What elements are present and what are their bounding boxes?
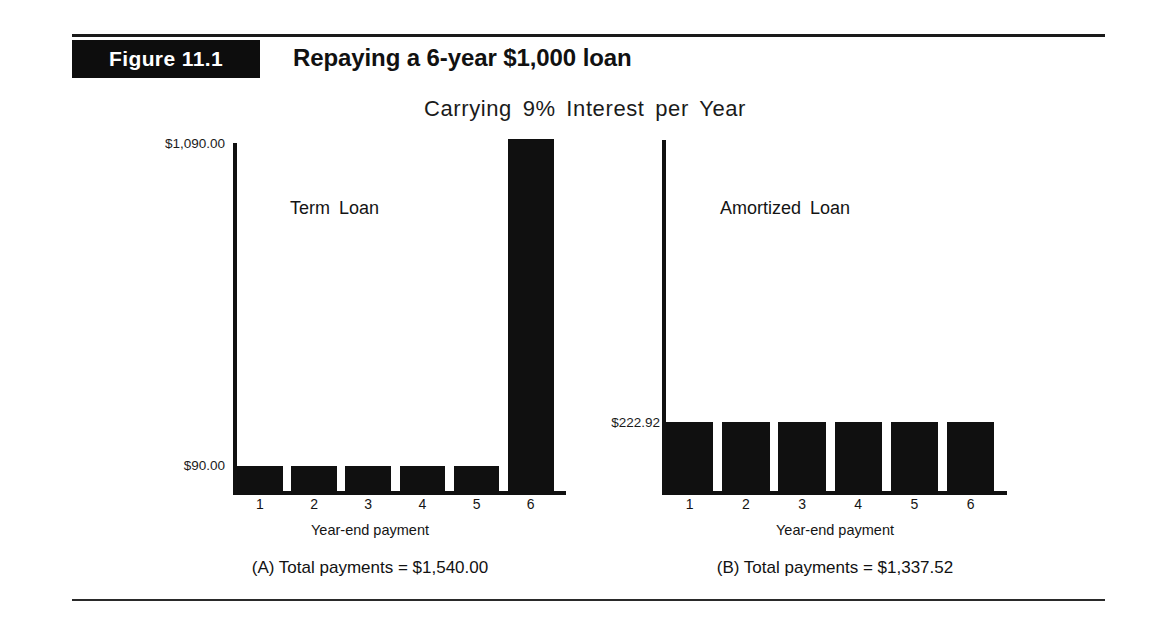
bar (237, 466, 283, 495)
bar (778, 422, 825, 495)
bar (666, 422, 713, 495)
panel-term-loan: $1,090.00 $90.00 Term Loan Year-end paym… (120, 130, 590, 600)
bar (835, 422, 882, 495)
chart-term-loan: $1,090.00 $90.00 Term Loan Year-end paym… (120, 130, 590, 500)
bar-slot (722, 139, 769, 495)
bar-group-b (666, 139, 1003, 495)
x-tick-label: 6 (951, 496, 991, 512)
x-axis-title-b: Year-end payment (585, 522, 1085, 538)
figure-title: Repaying a 6-year $1,000 loan (293, 44, 632, 72)
x-tick-label: 4 (838, 496, 878, 512)
bar-slot (454, 139, 500, 495)
x-axis-title-a: Year-end payment (150, 522, 590, 538)
bottom-divider-rule (72, 599, 1105, 601)
y-tick-label-bottom-a: $90.00 (184, 458, 225, 473)
panel-b-total-payments: (B) Total payments = $1,337.52 (585, 558, 1085, 578)
bar-group-a (237, 139, 562, 495)
x-tick-label: 5 (894, 496, 934, 512)
x-tick-label: 6 (511, 496, 551, 512)
x-tick-label: 1 (670, 496, 710, 512)
bar-slot (891, 139, 938, 495)
bar-slot (237, 139, 283, 495)
bar-slot (666, 139, 713, 495)
bar (291, 466, 337, 495)
bar (454, 466, 500, 495)
x-tick-label: 2 (726, 496, 766, 512)
bar-slot (508, 139, 554, 495)
y-tick-label-top-b: $222.92 (611, 415, 660, 430)
bar (891, 422, 938, 495)
bar-slot (400, 139, 446, 495)
x-tick-label: 3 (348, 496, 388, 512)
chart-amortized-loan: $222.92 Amortized Loan Year-end payment … (585, 130, 1085, 500)
bar-slot (947, 139, 994, 495)
bar (345, 466, 391, 495)
panel-a-total-payments: (A) Total payments = $1,540.00 (150, 558, 590, 578)
x-tick-label: 4 (402, 496, 442, 512)
bar-slot (778, 139, 825, 495)
x-tick-label: 5 (457, 496, 497, 512)
bar (508, 139, 554, 495)
bar-slot (835, 139, 882, 495)
x-tick-label: 3 (782, 496, 822, 512)
x-tick-label: 2 (294, 496, 334, 512)
bar-slot (345, 139, 391, 495)
bar (947, 422, 994, 495)
figure-subtitle: Carrying 9% Interest per Year (0, 96, 1170, 122)
bar (400, 466, 446, 495)
figure-number-badge: Figure 11.1 (72, 40, 260, 78)
bar (722, 422, 769, 495)
y-tick-label-top-a: $1,090.00 (165, 136, 225, 151)
top-divider-rule (72, 34, 1105, 37)
x-tick-label: 1 (240, 496, 280, 512)
figure-root: Figure 11.1 Repaying a 6-year $1,000 loa… (0, 0, 1170, 633)
panel-amortized-loan: $222.92 Amortized Loan Year-end payment … (585, 130, 1085, 600)
bar-slot (291, 139, 337, 495)
